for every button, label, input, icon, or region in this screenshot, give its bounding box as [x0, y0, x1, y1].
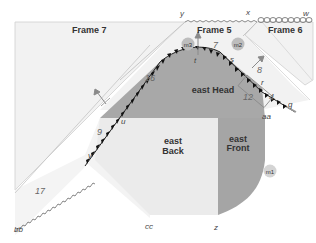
- point-y: y: [179, 9, 185, 18]
- svg-text:m3: m3: [184, 42, 193, 48]
- marker-m1: m1: [264, 165, 277, 178]
- number-4: 4: [269, 92, 274, 102]
- number-8: 8: [257, 65, 262, 75]
- point-bb: bb: [14, 225, 23, 234]
- point-w: w: [303, 9, 310, 18]
- marker-m3: m3: [182, 38, 195, 51]
- number-17: 17: [35, 186, 46, 196]
- frame-7-label: Frame 7: [72, 25, 107, 35]
- point-r: r: [261, 78, 264, 87]
- east-back-label-1: east: [164, 136, 182, 146]
- east-back-label-2: Back: [162, 146, 185, 156]
- diagram-canvas: m3 m2 m1 Frame 7 Frame 5 Frame 6 east He…: [0, 0, 316, 243]
- number-16: 16: [145, 73, 155, 83]
- point-u: u: [121, 117, 126, 126]
- point-q: q: [288, 100, 293, 109]
- marker-m2: m2: [232, 38, 245, 51]
- point-aa: aa: [262, 112, 271, 121]
- svg-text:m1: m1: [266, 169, 275, 175]
- east-front-label-2: Front: [227, 143, 250, 153]
- point-z: z: [213, 223, 218, 232]
- frame-6-label: Frame 6: [268, 25, 303, 35]
- east-front-region: [218, 118, 265, 215]
- number-12: 12: [243, 92, 253, 102]
- point-cc: cc: [145, 222, 153, 231]
- point-x: x: [245, 8, 251, 17]
- wavy-boundary-yx: [185, 21, 257, 23]
- svg-text:m2: m2: [234, 42, 243, 48]
- point-s: s: [230, 55, 234, 64]
- number-9: 9: [97, 127, 102, 137]
- frame-5-label: Frame 5: [197, 25, 232, 35]
- east-head-label: east Head: [192, 85, 235, 95]
